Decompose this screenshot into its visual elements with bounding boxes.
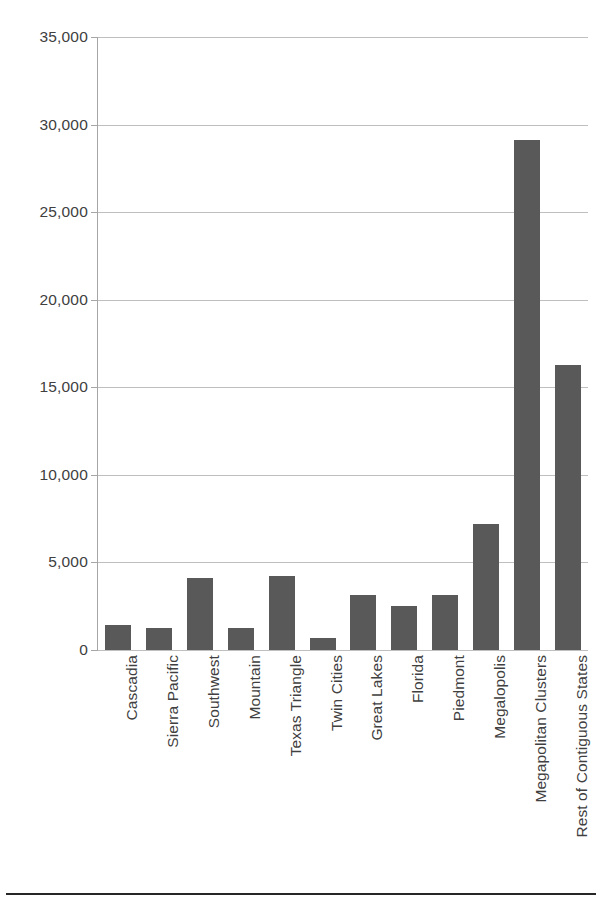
x-axis-label-slot: Florida (404, 655, 405, 656)
x-axis-category-label: Texas Triangle (288, 655, 304, 756)
bar[interactable] (146, 628, 172, 650)
x-axis-label-slot: Sierra Pacific (159, 655, 160, 656)
x-axis-label-slot: Megalopolis (486, 655, 487, 656)
y-axis-tick-label: 25,000 (14, 204, 88, 220)
y-axis-tick-mark (91, 562, 98, 563)
x-axis-category-label: Megalopolis (492, 655, 508, 739)
x-axis-label-slot: Megapolitan Clusters (527, 655, 528, 656)
x-axis-label-slot: Great Lakes (363, 655, 364, 656)
y-axis-tick-label: 35,000 (14, 29, 88, 45)
x-axis-label-slot: Twin Cities (323, 655, 324, 656)
x-axis-label-slot: Mountain (241, 655, 242, 656)
bar[interactable] (391, 606, 417, 650)
y-axis-tick-mark (91, 650, 98, 651)
bar[interactable] (350, 595, 376, 650)
bar[interactable] (473, 524, 499, 650)
x-axis-category-label: Great Lakes (369, 655, 385, 741)
y-axis-tick-label: 10,000 (14, 467, 88, 483)
bar[interactable] (310, 638, 336, 650)
y-axis-tick-mark (91, 37, 98, 38)
y-axis-tick-mark (91, 212, 98, 213)
x-axis-category-label: Megapolitan Clusters (533, 655, 549, 803)
bar[interactable] (105, 625, 131, 650)
x-axis-category-labels: CascadiaSierra PacificSouthwestMountainT… (98, 655, 588, 895)
x-axis-label-slot: Cascadia (118, 655, 119, 656)
y-axis-tick-mark (91, 125, 98, 126)
y-axis-tick-label: 30,000 (14, 117, 88, 133)
x-axis-category-label: Cascadia (124, 655, 140, 720)
x-axis-category-label: Southwest (206, 655, 222, 728)
y-axis-tick-mark (91, 475, 98, 476)
bar[interactable] (514, 140, 540, 650)
x-axis-label-slot: Rest of Contiguous States (568, 655, 569, 656)
y-axis-tick-label: 5,000 (14, 554, 88, 570)
x-axis-label-slot: Piedmont (445, 655, 446, 656)
x-axis-category-label: Piedmont (451, 655, 467, 721)
x-axis-category-label: Sierra Pacific (165, 655, 181, 748)
x-axis-label-slot: Southwest (200, 655, 201, 656)
x-axis-category-label: Rest of Contiguous States (574, 655, 590, 838)
bar[interactable] (228, 628, 254, 650)
x-axis-category-label: Twin Cities (329, 655, 345, 731)
bar[interactable] (269, 576, 295, 650)
x-axis-category-label: Mountain (247, 655, 263, 720)
y-axis-tick-mark (91, 387, 98, 388)
y-axis-tick-label: 15,000 (14, 379, 88, 395)
plot-area (98, 37, 588, 650)
bar[interactable] (555, 365, 581, 650)
y-axis-tick-mark (91, 300, 98, 301)
gridline (98, 37, 588, 38)
y-axis-tick-label: 20,000 (14, 292, 88, 308)
gridline (98, 125, 588, 126)
y-axis-tick-label: 0 (14, 642, 88, 658)
x-axis-label-slot: Texas Triangle (282, 655, 283, 656)
gridline (98, 650, 588, 651)
x-axis-category-label: Florida (410, 655, 426, 703)
bar[interactable] (432, 595, 458, 650)
bottom-divider-rule (6, 893, 596, 895)
bar[interactable] (187, 578, 213, 650)
y-axis-tick-labels: 35,00030,00025,00020,00015,00010,0005,00… (8, 0, 88, 906)
bar-chart-figure: 35,00030,00025,00020,00015,00010,0005,00… (0, 0, 602, 906)
